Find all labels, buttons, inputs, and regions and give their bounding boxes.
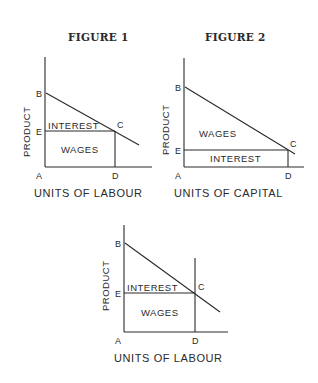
- figure-3-product-curve: [125, 243, 220, 312]
- figure-2-point-d: D: [285, 171, 292, 181]
- figure-3-point-c: C: [198, 282, 205, 292]
- figure-1-y-label: PRODUCT: [21, 107, 32, 157]
- figure-1-point-b: B: [36, 89, 42, 99]
- figure-1-product-curve: [46, 93, 139, 145]
- figure-3-x-label: UNITS OF LABOUR: [114, 352, 223, 364]
- figure-1-point-d: D: [112, 171, 119, 181]
- figure-2-point-a: A: [175, 171, 181, 181]
- figure-1-point-a: A: [36, 171, 42, 181]
- figure-2-y-label: PRODUCT: [160, 105, 171, 155]
- figure-2-region-upper: WAGES: [199, 128, 237, 139]
- figure-2-region-lower: INTEREST: [210, 153, 261, 164]
- figure-1-point-c: C: [117, 120, 124, 130]
- figure-2-title: FIGURE 2: [205, 31, 266, 43]
- figure-3-point-e: E: [115, 289, 121, 299]
- figure-2-point-c: C: [290, 139, 297, 149]
- figure-3-point-b: B: [115, 239, 121, 249]
- diagram-canvas: FIGURE 1 B E C A D INTEREST WAGES PRODUC…: [0, 0, 318, 383]
- figure-2-product-curve: [185, 87, 295, 154]
- figure-3-y-label: PRODUCT: [100, 261, 111, 311]
- figure-3-point-d: D: [192, 336, 199, 346]
- figure-2-point-e: E: [175, 146, 181, 156]
- figure-3-region-upper: INTEREST: [127, 282, 178, 293]
- figure-2-x-label: UNITS OF CAPITAL: [174, 187, 283, 199]
- figure-3: B E C A D INTEREST WAGES PRODUCT UNITS O…: [100, 225, 228, 364]
- figure-1-x-label: UNITS OF LABOUR: [34, 187, 143, 199]
- figure-1-region-upper: INTEREST: [48, 120, 99, 131]
- figure-1-region-lower: WAGES: [61, 144, 99, 155]
- figure-1: FIGURE 1 B E C A D INTEREST WAGES PRODUC…: [21, 31, 152, 199]
- figure-1-point-e: E: [36, 127, 42, 137]
- figure-3-region-lower: WAGES: [141, 307, 179, 318]
- figure-3-point-a: A: [115, 336, 121, 346]
- figure-2: FIGURE 2 B E C A D WAGES INTEREST PRODUC…: [160, 31, 304, 199]
- figure-1-title: FIGURE 1: [68, 31, 129, 43]
- figure-2-point-b: B: [175, 83, 181, 93]
